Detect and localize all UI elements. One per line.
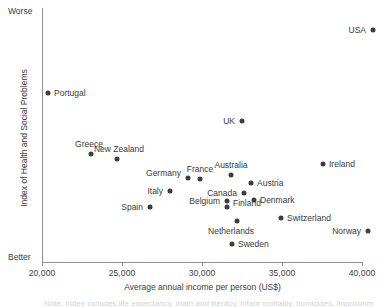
y-axis-title: Index of Health and Social Problems — [19, 38, 29, 238]
data-point[interactable] — [225, 199, 230, 204]
data-point[interactable] — [321, 162, 326, 167]
y-axis-line — [42, 8, 43, 262]
data-point-label: Ireland — [329, 160, 355, 169]
data-point-label: USA — [349, 26, 366, 35]
data-point[interactable] — [89, 152, 94, 157]
data-point[interactable] — [168, 189, 173, 194]
data-point[interactable] — [186, 176, 191, 181]
x-tick-label: 25,000 — [109, 268, 136, 278]
x-axis-title: Average annual income per person (US$) — [42, 282, 363, 292]
data-point-label: Germany — [146, 169, 181, 178]
data-point-label: Austria — [257, 179, 283, 188]
x-tick — [362, 262, 363, 266]
data-point-label: Finland — [233, 199, 261, 208]
data-point[interactable] — [229, 173, 234, 178]
y-axis-bottom-label: Better — [8, 252, 31, 262]
x-tick-label: 30,000 — [189, 268, 216, 278]
data-point[interactable] — [115, 157, 120, 162]
data-point[interactable] — [242, 191, 247, 196]
y-axis-top-label: Worse — [8, 6, 32, 16]
data-point-label: France — [187, 165, 213, 174]
data-point-label: Italy — [147, 187, 163, 196]
data-point-label: Switzerland — [287, 214, 331, 223]
data-point[interactable] — [366, 229, 371, 234]
data-point[interactable] — [371, 28, 376, 33]
data-point-label: Portugal — [54, 89, 86, 98]
data-point-label: Sweden — [238, 240, 269, 249]
data-point-label: Spain — [121, 203, 143, 212]
data-point[interactable] — [230, 242, 235, 247]
data-point[interactable] — [240, 119, 245, 124]
data-point-label: Denmark — [260, 196, 294, 205]
cropped-caption: Note: Index includes life expectancy, ma… — [44, 299, 374, 307]
x-tick-label: 35,000 — [269, 268, 296, 278]
data-point-label: Australia — [214, 161, 247, 170]
data-point[interactable] — [198, 177, 203, 182]
data-point[interactable] — [249, 181, 254, 186]
x-tick — [282, 262, 283, 266]
data-point-label: Norway — [332, 227, 361, 236]
data-point[interactable] — [225, 205, 230, 210]
data-point[interactable] — [235, 219, 240, 224]
data-point[interactable] — [279, 216, 284, 221]
x-tick — [122, 262, 123, 266]
data-point-label: Netherlands — [208, 227, 254, 236]
data-point-label: New Zealand — [94, 145, 144, 154]
x-tick — [42, 262, 43, 266]
data-point-label: UK — [223, 117, 235, 126]
x-tick-label: 40,000 — [349, 268, 376, 278]
x-tick-label: 20,000 — [29, 268, 56, 278]
data-point[interactable] — [46, 91, 51, 96]
x-tick — [202, 262, 203, 266]
scatter-plot: Worse Better Index of Health and Social … — [0, 0, 386, 307]
data-point-label: Belgium — [189, 197, 220, 206]
data-point[interactable] — [148, 205, 153, 210]
